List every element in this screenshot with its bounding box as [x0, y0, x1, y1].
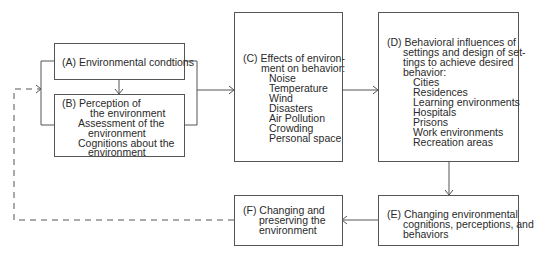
left-bracket	[41, 61, 54, 125]
box-f-changing-preserving: (F) Changing and preserving the environm…	[234, 195, 343, 246]
box-c-line: Personal space	[269, 133, 341, 145]
box-d-behavioral-influences: (D) Behavioral influences of settings an…	[378, 12, 519, 162]
box-e-line: behaviors	[403, 229, 449, 241]
box-b-line: environment	[88, 147, 146, 159]
box-a-label: (A) Environmental condtions	[62, 57, 194, 69]
box-c-effects-on-behavior: (C) Effects of environ- ment on behavior…	[234, 12, 343, 162]
right-bracket	[185, 61, 197, 125]
box-b-perception: (B) Perception of the environment Assess…	[54, 94, 185, 157]
box-e-changing-cognitions: (E) Changing environmental cognitions, p…	[378, 195, 519, 246]
box-a-environmental-conditions: (A) Environmental condtions	[54, 43, 185, 80]
box-d-line: Recreation areas	[413, 137, 493, 149]
box-f-line: environment	[259, 225, 317, 237]
